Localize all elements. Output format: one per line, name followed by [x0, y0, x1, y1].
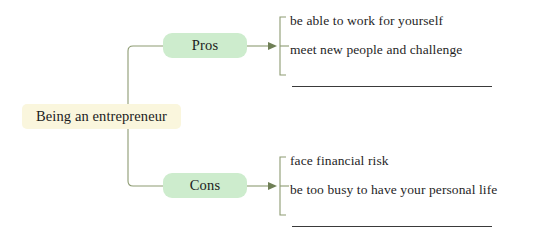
node-branch-cons[interactable]: Cons — [163, 173, 247, 198]
leaf-group-pros: be able to work for yourself meet new pe… — [290, 6, 530, 93]
node-root-label: Being an entrepreneur — [36, 108, 167, 125]
leaf-item: be able to work for yourself — [290, 6, 530, 35]
leaf-group-cons: face financial risk be too busy to have … — [290, 146, 530, 230]
node-root[interactable]: Being an entrepreneur — [22, 104, 181, 129]
leaf-text: meet new people and challenge — [290, 42, 462, 58]
node-branch-pros[interactable]: Pros — [163, 33, 247, 58]
arrowhead-cons — [268, 182, 277, 190]
leaf-item-blank[interactable] — [290, 64, 530, 93]
node-branch-pros-label: Pros — [192, 37, 219, 54]
arrowhead-pros — [268, 42, 277, 50]
node-branch-cons-label: Cons — [190, 177, 221, 194]
leaf-text: be too busy to have your personal life — [290, 182, 497, 198]
leaf-text: face financial risk — [290, 153, 389, 169]
leaf-item: face financial risk — [290, 146, 530, 175]
mindmap-diagram: Being an entrepreneur Pros Cons be able … — [0, 0, 536, 230]
leaf-text: be able to work for yourself — [290, 13, 443, 29]
leaf-item: be too busy to have your personal life — [290, 175, 530, 204]
leaf-item: meet new people and challenge — [290, 35, 530, 64]
leaf-item-blank[interactable] — [290, 204, 530, 230]
